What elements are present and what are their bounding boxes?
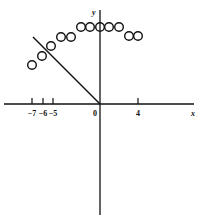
x-tick-label: −5 bbox=[49, 109, 58, 118]
data-points bbox=[28, 23, 143, 70]
scatter-plot: −7−6−54 0 x y bbox=[0, 0, 200, 215]
data-point bbox=[125, 32, 134, 41]
data-point bbox=[134, 32, 143, 41]
data-point bbox=[57, 33, 66, 42]
x-tick-label: −6 bbox=[39, 109, 48, 118]
y-axis-label: y bbox=[91, 8, 96, 17]
data-point bbox=[28, 61, 37, 70]
data-point bbox=[77, 23, 86, 32]
data-point bbox=[47, 42, 56, 51]
x-tick-label: −7 bbox=[28, 109, 37, 118]
data-point bbox=[67, 33, 76, 42]
x-ticks: −7−6−54 bbox=[28, 98, 140, 118]
data-point bbox=[38, 52, 47, 61]
x-axis-label: x bbox=[190, 109, 195, 118]
origin-label: 0 bbox=[93, 109, 97, 118]
line-segment bbox=[33, 37, 100, 104]
data-point bbox=[105, 23, 114, 32]
data-point bbox=[86, 23, 95, 32]
data-point bbox=[115, 23, 124, 32]
x-tick-label: 4 bbox=[136, 109, 140, 118]
